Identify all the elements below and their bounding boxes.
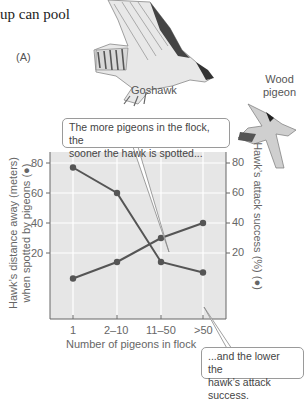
x-tick-2-10: 2–10 — [104, 324, 128, 336]
data-point — [158, 259, 164, 265]
data-point — [70, 275, 76, 281]
bottom-callout-line1: ...and the lower the — [208, 350, 297, 376]
data-point — [114, 190, 120, 196]
x-tick-1: 1 — [70, 324, 76, 336]
x-axis-title: Number of pigeons in flock — [66, 338, 196, 350]
left-axis-title: Hawk’s distance away (meters) when spott… — [7, 143, 33, 323]
bottom-callout: ...and the lower the hawk’s attack succe… — [201, 347, 304, 379]
x-tick-11-50: 11–50 — [146, 324, 176, 336]
right-tick-60: 60 — [232, 186, 244, 198]
data-point — [114, 259, 120, 265]
wood-pigeon-label-line2: pigeon — [263, 86, 296, 99]
top-callout-line1: The more pigeons in the flock, the — [69, 121, 223, 147]
top-callout-line2: sooner the hawk is spotted... — [69, 147, 223, 160]
right-axis-title: Hawk’s attack success (%) (●) — [252, 126, 264, 306]
x-tick-gt50: >50 — [194, 324, 213, 336]
wood-pigeon-label: Wood pigeon — [263, 73, 296, 99]
bottom-callout-line2: hawk’s attack success. — [208, 376, 297, 402]
top-callout: The more pigeons in the flock, the soone… — [62, 118, 230, 148]
right-tick-20: 20 — [232, 246, 244, 258]
plot-area — [50, 152, 226, 319]
left-axis-title-line1: Hawk’s distance away (meters) — [7, 143, 20, 323]
data-point — [70, 164, 76, 170]
goshawk-label: Goshawk — [131, 84, 177, 97]
left-axis-title-line2: when spotted by pigeons (●) — [20, 143, 33, 323]
wood-pigeon-label-line1: Wood — [263, 73, 296, 86]
data-point — [200, 269, 206, 275]
right-tick-80: 80 — [232, 156, 244, 168]
wood-pigeon-illustration — [238, 104, 296, 168]
right-tick-40: 40 — [232, 216, 244, 228]
data-point — [200, 220, 206, 226]
